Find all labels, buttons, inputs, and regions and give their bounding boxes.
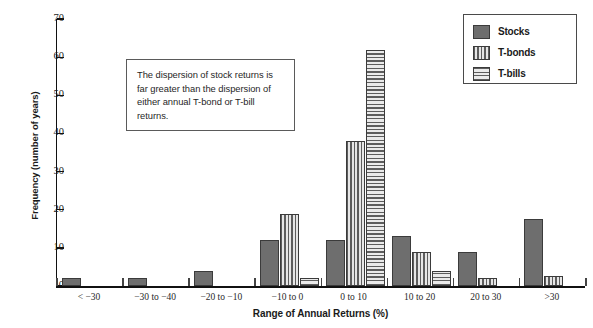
x-tick-mark: [254, 278, 256, 286]
bar-tbonds-7: [544, 276, 563, 286]
bar-tbills-4: [366, 50, 385, 286]
x-tick-label: 0 to 10: [321, 292, 387, 302]
x-tick-label: >30: [519, 292, 585, 302]
bar-stocks-1: [128, 278, 147, 286]
x-tick-mark: [321, 278, 323, 286]
x-tick-label: 10 to 20: [387, 292, 453, 302]
legend-label: T-bonds: [498, 47, 535, 58]
bar-tbonds-3: [280, 214, 299, 286]
x-tick-mark: [453, 278, 455, 286]
x-tick-label: 20 to 30: [453, 292, 519, 302]
bar-stocks-4: [326, 240, 345, 286]
x-tick-mark: [122, 278, 124, 286]
bar-stocks-2: [194, 271, 213, 286]
legend-item-stocks: Stocks: [473, 22, 576, 41]
legend-item-tbonds: T-bonds: [473, 43, 576, 62]
x-tick-label: −10 to 0: [254, 292, 320, 302]
bar-stocks-0: [62, 278, 81, 286]
bar-stocks-3: [260, 240, 279, 286]
x-tick-mark: [387, 278, 389, 286]
bar-stocks-6: [458, 252, 477, 286]
x-tick-mark: [519, 278, 521, 286]
x-tick-label: < −30: [56, 292, 122, 302]
x-tick-label: −20 to −10: [188, 292, 254, 302]
bar-tbills-5: [432, 271, 451, 286]
histogram-chart: Frequency (number of years) 010203040506…: [0, 0, 593, 328]
bar-tbonds-4: [346, 141, 365, 286]
x-axis-line: [56, 286, 585, 288]
bar-tbonds-6: [478, 278, 497, 286]
bar-stocks-5: [392, 236, 411, 286]
legend-label: Stocks: [498, 26, 530, 37]
bar-stocks-7: [524, 219, 543, 286]
x-tick-label: −30 to −40: [122, 292, 188, 302]
legend-label: T-bills: [498, 68, 526, 79]
legend-item-tbills: T-bills: [473, 64, 576, 83]
annotation-box: The dispersion of stock returns is far g…: [126, 59, 295, 131]
x-tick-mark: [585, 278, 587, 286]
x-tick-mark: [188, 278, 190, 286]
legend-swatch-icon: [473, 25, 490, 39]
x-tick-mark: [56, 278, 58, 286]
legend-swatch-icon: [473, 67, 490, 81]
chart-legend: StocksT-bondsT-bills: [463, 14, 577, 84]
legend-swatch-icon: [473, 46, 490, 60]
bar-tbills-3: [300, 278, 319, 286]
x-axis-title: Range of Annual Returns (%): [56, 308, 585, 319]
bar-tbonds-5: [412, 252, 431, 286]
annotation-text: The dispersion of stock returns is far g…: [137, 68, 285, 122]
